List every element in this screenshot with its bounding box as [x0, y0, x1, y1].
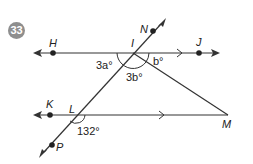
point-k [47, 112, 53, 118]
angle-label-132: 132° [77, 125, 100, 137]
label-h: H [49, 37, 57, 49]
label-n: N [140, 23, 148, 35]
point-n [150, 28, 156, 34]
label-j: J [195, 36, 202, 48]
segment-im [133, 53, 228, 115]
point-p [49, 142, 55, 148]
line-km [33, 111, 228, 119]
angle-label-3a: 3a° [96, 59, 113, 71]
label-m: M [222, 118, 232, 130]
angle-arc-3a [117, 53, 122, 64]
point-j [196, 50, 202, 56]
point-h [50, 50, 56, 56]
label-k: K [46, 98, 54, 110]
angle-label-b: b° [153, 55, 164, 67]
angle-label-3b: 3b° [126, 71, 143, 83]
label-i: I [131, 37, 134, 49]
angle-arc-b [146, 53, 149, 62]
transversal-pn [39, 18, 166, 158]
line-hj [33, 49, 220, 57]
label-l: L [69, 103, 75, 115]
angle-arc-132 [70, 115, 85, 123]
geometry-diagram: H I J N K L M P 3a° 3b° b° 132° [0, 0, 253, 164]
label-p: P [56, 141, 64, 153]
